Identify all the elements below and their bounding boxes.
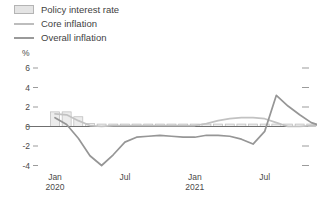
y-tick-label: -2 <box>22 141 30 151</box>
footnote-cropped <box>12 200 312 205</box>
x-tick-month-label: Jul <box>119 172 130 182</box>
y-tick-label: 6 <box>25 63 30 73</box>
y-axis-ticks: 6420-2-4 <box>22 63 38 171</box>
policy-rate-bars <box>51 112 318 127</box>
x-tick-year-label: 2020 <box>46 182 65 192</box>
x-tick-month-label: Jan <box>188 172 202 182</box>
y-tick-label: -4 <box>22 161 30 171</box>
y-tick-label: 4 <box>25 83 30 93</box>
y-tick-label: 2 <box>25 102 30 112</box>
plot-area: 6420-2-4 Jan2020JulJan2021JulJan2022 <box>0 0 317 205</box>
x-tick-month-label: Jul <box>259 172 270 182</box>
x-axis-tick-labels: Jan2020JulJan2021JulJan2022 <box>46 172 317 192</box>
chart-canvas: 6420-2-4 Jan2020JulJan2021JulJan2022 <box>0 0 317 205</box>
x-tick-month-label: Jan <box>48 172 62 182</box>
overall-inflation-line <box>55 95 317 165</box>
inflation-policy-rate-chart: Policy interest rate Core inflation Over… <box>0 0 317 205</box>
x-tick-year-label: 2021 <box>185 182 204 192</box>
